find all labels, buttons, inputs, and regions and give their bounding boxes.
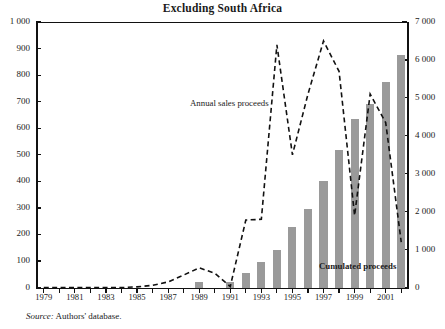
left-tick-label: 900 bbox=[17, 44, 31, 53]
figure-canvas: Excluding South Africa 01002003004005006… bbox=[0, 0, 445, 329]
right-tick-label: 4 000 bbox=[415, 131, 435, 140]
x-tick-label: 1997 bbox=[315, 293, 332, 302]
x-tick-label: 1991 bbox=[222, 293, 239, 302]
right-tick-label: 5 000 bbox=[415, 93, 435, 102]
x-tick-label: 1999 bbox=[346, 293, 363, 302]
right-tick-label: 1 000 bbox=[415, 245, 435, 254]
x-tick-label: 1987 bbox=[160, 293, 177, 302]
right-tick-label: 7 000 bbox=[415, 17, 435, 26]
x-tick-label: 1979 bbox=[35, 293, 52, 302]
left-tick-label: 0 bbox=[26, 283, 31, 292]
x-tick-label: 1995 bbox=[284, 293, 301, 302]
left-tick-label: 800 bbox=[17, 70, 31, 79]
x-tick-label: 1989 bbox=[191, 293, 208, 302]
annotation-cumulated-proceeds: Cumulated proceeds bbox=[319, 261, 396, 271]
left-tick-label: 100 bbox=[17, 256, 31, 265]
left-tick-label: 400 bbox=[17, 176, 31, 185]
plot-area: 01002003004005006007008009001 000 01 000… bbox=[36, 22, 409, 289]
right-tick-label: 3 000 bbox=[415, 169, 435, 178]
left-tick-label: 500 bbox=[17, 150, 31, 159]
x-tick-label: 1983 bbox=[97, 293, 114, 302]
source-note: Source: Authors' database. bbox=[26, 311, 122, 321]
left-tick-label: 200 bbox=[17, 229, 31, 238]
left-tick-label: 300 bbox=[17, 203, 31, 212]
right-tick-label: 0 bbox=[415, 283, 420, 292]
left-tick-label: 600 bbox=[17, 123, 31, 132]
annotation-annual-sales-proceeds: Annual sales proceeds bbox=[190, 98, 269, 108]
source-value: Authors' database. bbox=[55, 311, 121, 321]
chart-title: Excluding South Africa bbox=[0, 2, 445, 14]
left-tick-label: 1 000 bbox=[10, 17, 30, 26]
x-tick-label: 2001 bbox=[377, 293, 394, 302]
x-tick-label: 1993 bbox=[253, 293, 270, 302]
left-tick-label: 700 bbox=[17, 97, 31, 106]
line-series-annual-sales-proceeds bbox=[36, 22, 409, 289]
right-tick-label: 2 000 bbox=[415, 207, 435, 216]
x-tick-label: 1981 bbox=[66, 293, 83, 302]
right-tick-label: 6 000 bbox=[415, 55, 435, 64]
source-label: Source: bbox=[26, 311, 54, 321]
x-tick-label: 1985 bbox=[128, 293, 145, 302]
